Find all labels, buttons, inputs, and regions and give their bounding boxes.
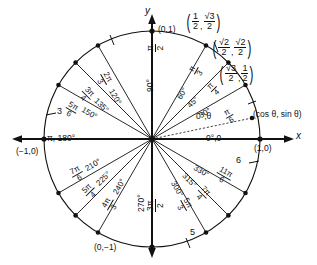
x-axis-label: x — [296, 131, 301, 141]
callout-45-x: √2 2 — [218, 38, 230, 57]
x-axis-arrow-right — [284, 135, 294, 143]
angle-270-degrees: 270° — [137, 194, 146, 212]
coord-bottom: (0,−1) — [94, 243, 116, 252]
paren-open-icon: ( — [213, 39, 217, 56]
coord-left: (−1,0) — [16, 147, 38, 156]
paren-close-icon: ) — [250, 65, 254, 82]
paren-open-icon: ( — [220, 65, 224, 82]
tick-number-6: 6 — [236, 156, 241, 165]
tick-number-3: 3 — [57, 107, 62, 116]
x-axis-arrow-left — [12, 135, 22, 143]
angle-270-radians: 3π2 — [146, 199, 164, 212]
coordinate-callout-30: ( √3 2 , 1 2 ) — [218, 64, 255, 83]
callout-45-y: √2 2 — [234, 38, 246, 57]
coordinate-callout-45: ( √2 2 , √2 2 ) — [211, 38, 253, 57]
cos-sin-point-label: (cos θ, sin θ) — [253, 110, 302, 119]
callout-60-y: √3 2 — [204, 12, 216, 31]
coord-right: (1,0) — [254, 144, 271, 153]
paren-open-icon: ( — [187, 13, 191, 30]
callout-30-y: 1 2 — [241, 64, 248, 83]
callout-30-x: √3 2 — [225, 64, 237, 83]
angle-0: 0°,0 — [206, 134, 221, 143]
callout-60-x: 1 2 — [192, 12, 199, 31]
unit-circle-figure: x y (0,1) (1,0) (−1,0) (0,−1) 0°,0 π, 18… — [0, 0, 317, 265]
paren-close-icon: ) — [217, 13, 221, 30]
paren-close-icon: ) — [248, 39, 252, 56]
tick-number-5: 5 — [190, 228, 195, 237]
angle-90-radians: π2 — [146, 44, 164, 52]
angle-90-degrees: 90° — [146, 79, 155, 92]
coord-top: (0,1) — [158, 25, 175, 34]
angle-180: π, 180° — [47, 134, 75, 143]
coordinate-callout-60: ( 1 2 , √3 2 ) — [185, 12, 222, 31]
y-axis-label: y — [145, 6, 150, 16]
